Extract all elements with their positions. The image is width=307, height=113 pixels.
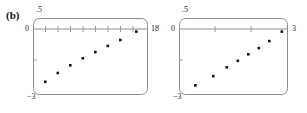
figure-root: (b) — [0, 0, 307, 113]
panel-label-b: (b) — [6, 9, 19, 21]
plot-right-canvas — [179, 18, 288, 95]
plot-left-frame — [34, 19, 148, 95]
plot-right-label-zero: 0 — [171, 25, 175, 33]
plot-left-points — [44, 30, 138, 83]
plot-left-label-top: .5 — [36, 6, 42, 14]
plot-left-label-right: 18 — [151, 25, 159, 33]
plot-left-label-bottom: −3 — [27, 93, 36, 101]
plot-right-label-bottom: −3 — [173, 93, 182, 101]
plot-left-canvas — [33, 18, 148, 95]
plot-right-label-top: .5 — [182, 6, 188, 14]
plot-right-frame — [180, 19, 288, 95]
scatter-plot-left — [33, 18, 148, 95]
scatter-plot-right — [179, 18, 288, 95]
plot-left-label-zero: 0 — [25, 25, 29, 33]
plot-right-label-right: 3 — [292, 25, 296, 33]
plot-right-points — [194, 30, 283, 86]
